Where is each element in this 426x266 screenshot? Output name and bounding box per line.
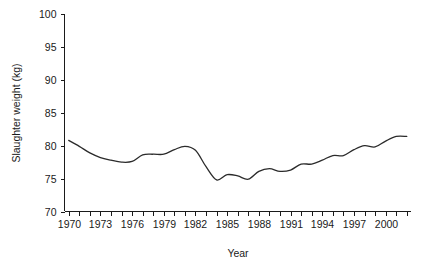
x-axis-tick-labels: 1970197319761979198219851988199119941997… [58,218,399,230]
x-tick-label: 1973 [89,218,113,230]
x-tick-label: 1982 [184,218,208,230]
y-tick-label: 80 [45,140,57,152]
y-tick-label: 85 [45,107,57,119]
chart-container: 707580859095100 197019731976197919821985… [0,0,426,266]
x-axis-ticks [70,212,408,216]
y-tick-label: 75 [45,173,57,185]
x-tick-label: 1985 [216,218,240,230]
y-tick-label: 90 [45,74,57,86]
data-series-line [69,136,407,180]
x-tick-label: 1970 [58,218,82,230]
y-tick-label: 70 [45,206,57,218]
y-axis-ticks [61,15,65,213]
line-chart: 707580859095100 197019731976197919821985… [0,0,426,266]
x-tick-label: 1988 [248,218,272,230]
y-tick-label: 100 [39,8,57,20]
x-tick-label: 1976 [121,218,145,230]
x-tick-label: 1994 [311,218,335,230]
y-tick-label: 95 [45,41,57,53]
x-tick-label: 1991 [280,218,304,230]
y-axis-tick-labels: 707580859095100 [39,8,57,218]
x-tick-label: 1979 [153,218,177,230]
x-tick-label: 2000 [375,218,399,230]
x-tick-label: 1997 [343,218,367,230]
x-axis-title: Year [227,247,249,259]
y-axis-title: Slaughter weight (kg) [10,63,22,162]
